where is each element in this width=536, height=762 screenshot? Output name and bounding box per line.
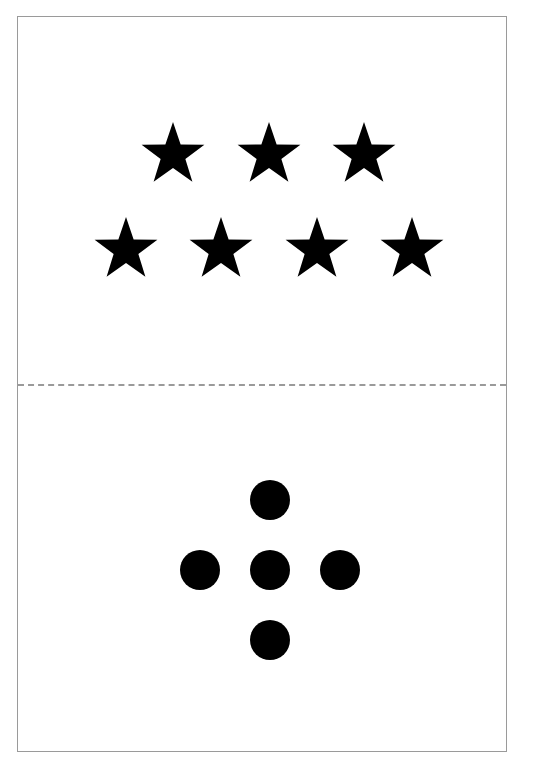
star-icon: [238, 122, 301, 182]
dot-center: [250, 550, 290, 590]
dot-group: [180, 480, 360, 660]
star-group: [95, 122, 444, 277]
star-icon: [286, 217, 349, 277]
dot-right: [320, 550, 360, 590]
star-icon: [333, 122, 396, 182]
star-icon: [95, 217, 158, 277]
dot-left: [180, 550, 220, 590]
star-icon: [142, 122, 205, 182]
dot-top: [250, 480, 290, 520]
star-icon: [381, 217, 444, 277]
star-icon: [190, 217, 253, 277]
shapes-canvas: [0, 0, 536, 762]
dot-bottom: [250, 620, 290, 660]
